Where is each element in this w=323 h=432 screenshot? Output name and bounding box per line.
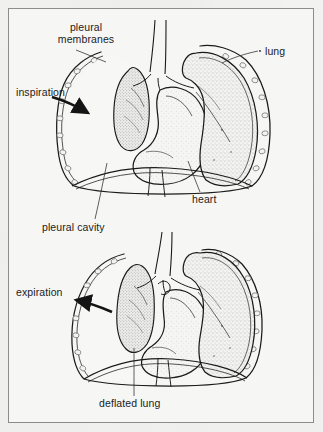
label-deflated-lung: deflated lung: [99, 397, 160, 409]
diagram-artwork: [0, 0, 323, 432]
figure-canvas: pleural membranes lung inspiration heart…: [0, 0, 323, 432]
upper-panel-inspiration: [52, 20, 270, 219]
label-heart: heart: [192, 193, 216, 205]
label-pleural-membranes-line1: pleural: [70, 21, 102, 33]
label-expiration: expiration: [16, 286, 63, 298]
trachea-upper: [150, 20, 166, 74]
leader-lung-dot: [259, 50, 261, 52]
label-pleural-cavity: pleural cavity: [42, 221, 105, 233]
lower-panel-expiration: [72, 232, 262, 396]
label-lung: lung: [265, 45, 285, 57]
label-pleural-membranes-line2: membranes: [58, 33, 114, 45]
trachea-lower: [155, 232, 172, 276]
label-inspiration: inspiration: [16, 86, 65, 98]
label-pleural-membranes: pleural membranes: [48, 21, 124, 45]
